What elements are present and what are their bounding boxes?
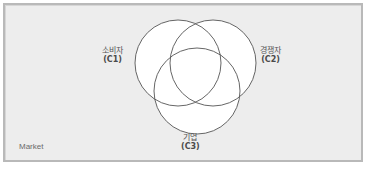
label-c3-code: (C3)	[181, 142, 200, 151]
label-c3-name: 기업	[183, 133, 197, 142]
market-label: Market	[19, 142, 43, 151]
label-c1-name: 소비자	[102, 46, 123, 55]
label-c2: 경쟁자 (C2)	[260, 46, 281, 64]
label-c3: 기업 (C3)	[181, 133, 200, 151]
label-c1: 소비자 (C1)	[102, 46, 123, 64]
label-c2-name: 경쟁자	[260, 46, 281, 55]
label-c2-code: (C2)	[260, 55, 281, 64]
label-c1-code: (C1)	[102, 55, 123, 64]
